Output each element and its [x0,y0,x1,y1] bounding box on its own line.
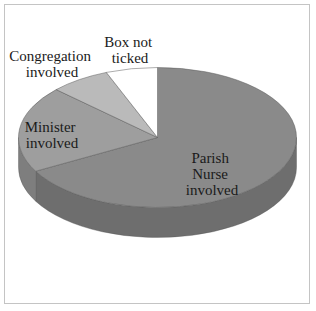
pie-chart: Parish Nurse involved Minister involved … [0,0,316,311]
label-minister: Minister involved [25,119,80,151]
label-parish-nurse: Parish Nurse involved [186,150,239,198]
label-congregation: Congregation involved [9,48,94,80]
label-box-not-ticked: Box not ticked [104,34,156,66]
